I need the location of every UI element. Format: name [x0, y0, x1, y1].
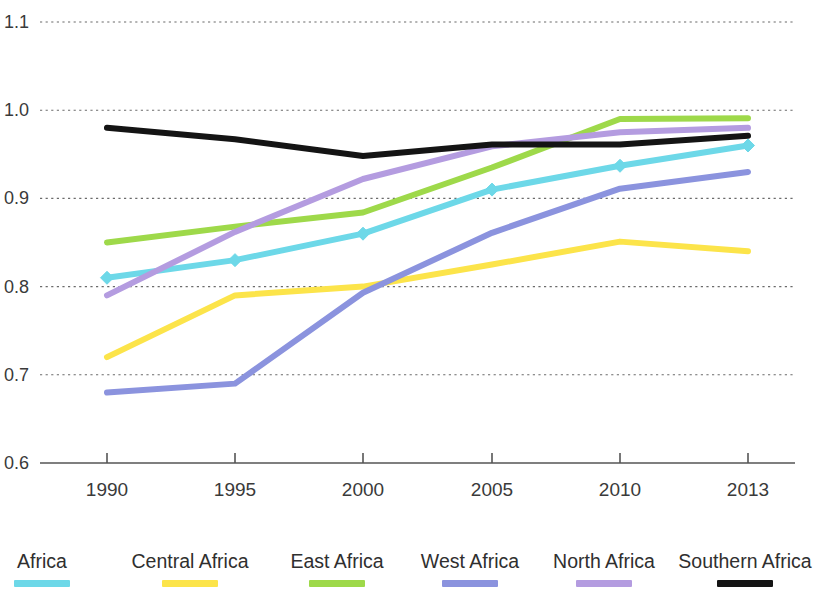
legend-color-swatch	[576, 580, 632, 587]
legend-label: North Africa	[524, 548, 684, 574]
chart-canvas: 1.11.00.90.80.70.6 199019952000200520102…	[0, 0, 805, 520]
data-point-marker	[742, 139, 755, 152]
legend-item-north-africa[interactable]: North Africa	[524, 548, 684, 587]
y-axis-tick-label: 0.9	[4, 188, 29, 208]
x-axis-tick-label: 2013	[727, 479, 769, 500]
legend-label: Central Africa	[110, 548, 270, 574]
x-axis	[40, 453, 795, 463]
y-axis-tick-labels: 1.11.00.90.80.70.6	[4, 12, 29, 473]
y-axis-tick-label: 1.1	[4, 12, 29, 32]
data-point-marker	[614, 159, 627, 172]
legend-item-central-africa[interactable]: Central Africa	[110, 548, 270, 587]
x-axis-tick-labels: 199019952000200520102013	[86, 479, 769, 500]
chart-plot-area: 1.11.00.90.80.70.6 199019952000200520102…	[0, 0, 805, 520]
y-axis-tick-label: 1.0	[4, 100, 29, 120]
gridlines-group	[40, 22, 795, 375]
legend-label: Southern Africa	[665, 548, 817, 574]
legend-item-southern-africa[interactable]: Southern Africa	[665, 548, 817, 587]
legend-color-swatch	[14, 580, 70, 587]
x-axis-tick-label: 2000	[342, 479, 384, 500]
y-axis-tick-label: 0.8	[4, 277, 29, 297]
data-point-marker	[101, 271, 114, 284]
legend-color-swatch	[717, 580, 773, 587]
legend-color-swatch	[162, 580, 218, 587]
x-axis-tick-label: 1990	[86, 479, 128, 500]
x-axis-tick-label: 2005	[471, 479, 513, 500]
y-axis-tick-label: 0.7	[4, 365, 29, 385]
legend-label: Africa	[0, 548, 122, 574]
data-series-group	[107, 118, 748, 392]
data-point-marker	[229, 254, 242, 267]
chart-legend: AfricaCentral AfricaEast AfricaWest Afri…	[0, 548, 805, 592]
x-axis-tick-label: 2010	[599, 479, 641, 500]
y-axis-tick-label: 0.6	[4, 453, 29, 473]
x-axis-tick-label: 1995	[214, 479, 256, 500]
legend-color-swatch	[309, 580, 365, 587]
legend-item-africa[interactable]: Africa	[0, 548, 122, 587]
series-line-central-africa	[107, 242, 748, 358]
legend-color-swatch	[442, 580, 498, 587]
series-line-west-africa	[107, 172, 748, 393]
